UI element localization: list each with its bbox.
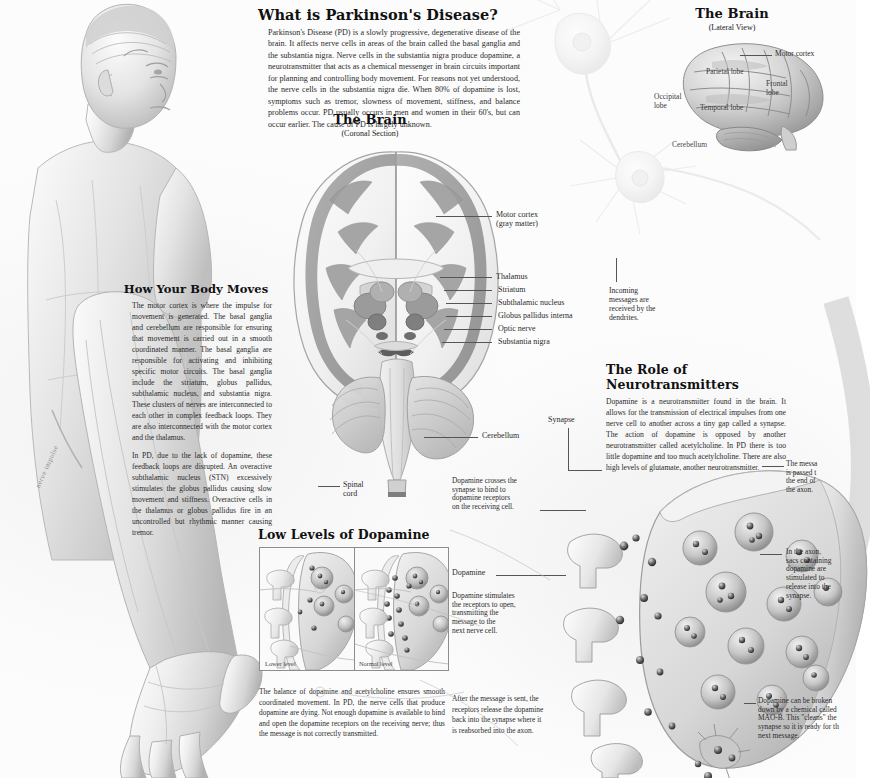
label-globus-pallidus-interna: Globus pallidus interna xyxy=(498,311,573,320)
note-mao-b: Dopamine can be broken down by a chemica… xyxy=(758,697,858,741)
note-axon-vesicles: In the axon, sacs containing dopamine ar… xyxy=(786,548,860,600)
lateral-brain-title-group: The Brain (Lateral View) xyxy=(672,6,792,32)
label-thalamus: Thalamus xyxy=(496,272,528,281)
leader-mao-b xyxy=(744,703,756,704)
label-subthalamic-nucleus: Subthalamic nucleus xyxy=(498,298,564,307)
label-temporal-lobe: Temporal lobe xyxy=(700,104,743,113)
leader-motor-cortex-coronal xyxy=(436,216,492,217)
leader-axon-end xyxy=(762,466,784,467)
lateral-brain-title: The Brain xyxy=(672,6,792,21)
leader-cerebellum-coronal xyxy=(424,437,478,438)
label-cerebellum-lateral: Cerebellum xyxy=(672,141,707,150)
note-message-passed-axon: The messa is passed t the end of the axo… xyxy=(786,460,860,495)
leader-thalamus xyxy=(440,277,492,278)
axon-connector-strands xyxy=(250,470,610,760)
label-motor-cortex-coronal: Motor cortex (gray matter) xyxy=(496,210,538,229)
leader-striatum xyxy=(444,290,492,291)
lateral-brain-subtitle: (Lateral View) xyxy=(672,23,792,32)
what-is-pd-heading: What is Parkinson's Disease? xyxy=(258,6,520,23)
how-body-moves-heading: How Your Body Moves xyxy=(120,282,272,296)
label-optic-nerve: Optic nerve xyxy=(498,324,536,333)
label-cerebellum-coronal: Cerebellum xyxy=(482,431,519,440)
label-motor-cortex-lateral: Motor cortex xyxy=(775,50,814,59)
leader-globus-pallidus-interna xyxy=(446,316,492,317)
label-frontal-lobe: Frontal lobe xyxy=(766,80,788,98)
label-occipital-lobe: Occipital lobe xyxy=(654,93,682,111)
leader-motor-cortex-lateral xyxy=(740,55,772,56)
leader-optic-nerve xyxy=(444,329,492,330)
coronal-brain-title: The Brain xyxy=(300,112,440,127)
leader-vesicles xyxy=(760,554,782,555)
leader-synapse xyxy=(568,428,569,470)
how-body-moves-paragraph-1: The motor cortex is where the impulse fo… xyxy=(120,300,272,443)
coronal-brain-illustration xyxy=(278,140,518,500)
note-incoming-messages: Incoming messages are received by the de… xyxy=(609,287,655,323)
leader-subthalamic-nucleus xyxy=(446,303,492,304)
leader-substantia-nigra xyxy=(442,342,492,343)
leader-dendrites xyxy=(616,258,617,282)
label-synapse: Synapse xyxy=(548,415,575,424)
label-striatum: Striatum xyxy=(498,285,526,294)
neurotransmitters-heading: The Role of Neurotransmitters xyxy=(606,362,786,392)
coronal-brain-subtitle: (Coronal Section) xyxy=(300,129,440,138)
coronal-brain-title-group: The Brain (Coronal Section) xyxy=(300,112,440,138)
label-parietal-lobe: Parietal lobe xyxy=(706,68,744,77)
label-substantia-nigra: Substantia nigra xyxy=(498,337,550,346)
